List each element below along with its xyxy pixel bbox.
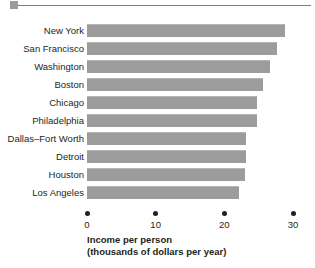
bar	[87, 168, 245, 181]
bar-row: New York	[0, 24, 315, 42]
bar	[87, 114, 257, 127]
category-label: San Francisco	[0, 43, 84, 55]
category-label: Los Angeles	[0, 187, 84, 199]
x-axis-tick-dot	[222, 211, 227, 216]
bar	[87, 132, 246, 145]
x-axis-tick-dot	[85, 211, 90, 216]
x-axis-title: Income per person (thousands of dollars …	[87, 234, 315, 258]
bar-row: Houston	[0, 168, 315, 186]
x-axis-title-line2: (thousands of dollars per year)	[87, 246, 315, 258]
x-axis-tick-dot	[153, 211, 158, 216]
x-axis: 0102030	[0, 208, 315, 234]
category-label: Houston	[0, 169, 84, 181]
x-axis-tick-label: 30	[288, 219, 299, 230]
bar-row: Chicago	[0, 96, 315, 114]
bar-row: Dallas–Fort Worth	[0, 132, 315, 150]
x-axis-tick-label: 10	[150, 219, 161, 230]
bar-row: Detroit	[0, 150, 315, 168]
bar	[87, 150, 246, 163]
category-label: Chicago	[0, 97, 84, 109]
x-axis-tick-label: 20	[219, 219, 230, 230]
x-axis-tick-label: 0	[84, 219, 89, 230]
bar-row: Boston	[0, 78, 315, 96]
income-per-person-bar-chart: New YorkSan FranciscoWashingtonBostonChi…	[0, 0, 315, 268]
bar-row: Los Angeles	[0, 186, 315, 204]
bar	[87, 42, 277, 55]
category-label: New York	[0, 25, 84, 37]
bar	[87, 96, 257, 109]
x-axis-tick-dot	[291, 211, 296, 216]
bar-row: Washington	[0, 60, 315, 78]
chart-plot-area: New YorkSan FranciscoWashingtonBostonChi…	[0, 24, 315, 204]
category-label: Detroit	[0, 151, 84, 163]
bar	[87, 78, 263, 91]
x-axis-title-line1: Income per person	[87, 234, 315, 246]
bar	[87, 24, 285, 37]
category-label: Boston	[0, 79, 84, 91]
category-label: Philadelphia	[0, 115, 84, 127]
bar-row: San Francisco	[0, 42, 315, 60]
bar	[87, 60, 270, 73]
bar-row: Philadelphia	[0, 114, 315, 132]
category-label: Washington	[0, 61, 84, 73]
bar	[87, 186, 239, 199]
category-label: Dallas–Fort Worth	[0, 133, 84, 145]
